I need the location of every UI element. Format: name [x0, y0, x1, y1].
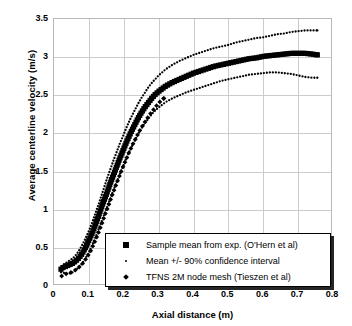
x-tick-label: 0.6: [247, 289, 277, 299]
y-axis-tick-labels: 00.511.522.533.5: [22, 0, 48, 326]
x-tick-label: 0: [38, 289, 68, 299]
legend-item: Mean +/- 90% confidence interval: [106, 253, 330, 269]
legend-item-label: Sample mean from exp. (O'Hern et al): [146, 240, 298, 250]
x-tick-label: 0.2: [108, 289, 138, 299]
y-tick-label: 2.5: [22, 89, 48, 99]
x-axis-title: Axial distance (m): [53, 309, 332, 320]
y-tick-label: 0.5: [22, 242, 48, 252]
legend-item-label: Mean +/- 90% confidence interval: [146, 256, 280, 266]
y-tick-label: 1: [22, 204, 48, 214]
diamond-marker-icon: [106, 275, 146, 279]
dot-marker-icon: [106, 260, 146, 262]
y-tick-label: 1.5: [22, 166, 48, 176]
x-tick-label: 0.3: [143, 289, 173, 299]
y-tick-label: 3.5: [22, 13, 48, 23]
y-tick-label: 2: [22, 127, 48, 137]
x-tick-label: 0.7: [282, 289, 312, 299]
x-tick-label: 0.8: [317, 289, 347, 299]
x-axis-tick-labels: 00.10.20.30.40.50.60.70.8: [0, 289, 352, 303]
x-tick-label: 0.5: [212, 289, 242, 299]
legend: Sample mean from exp. (O'Hern et al)Mean…: [105, 233, 331, 287]
x-tick-label: 0.1: [73, 289, 103, 299]
legend-item: TFNS 2M node mesh (Tieszen et al): [106, 269, 330, 285]
legend-item-label: TFNS 2M node mesh (Tieszen et al): [146, 272, 291, 282]
chart-figure: Average centerline velocity (m/s) Axial …: [0, 0, 352, 326]
legend-item: Sample mean from exp. (O'Hern et al): [106, 237, 330, 253]
x-tick-label: 0.4: [178, 289, 208, 299]
y-tick-label: 3: [22, 51, 48, 61]
square-marker-icon: [106, 242, 146, 248]
